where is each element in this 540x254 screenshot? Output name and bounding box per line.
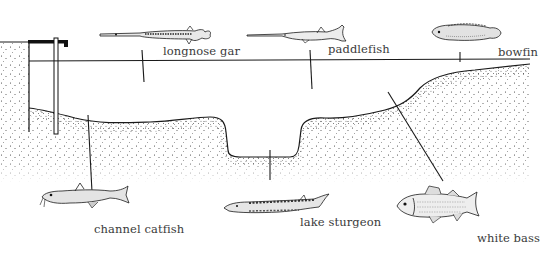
label-bowfin: bowfin [498, 45, 538, 59]
label-white-bass: white bass [477, 231, 540, 245]
label-longnose-gar: longnose gar [163, 44, 240, 58]
pointer-longnose-gar [142, 50, 144, 82]
label-lake-sturgeon: lake sturgeon [300, 215, 381, 229]
label-channel-catfish: channel catfish [94, 222, 184, 236]
label-paddlefish: paddlefish [328, 42, 390, 56]
water-surface-line [29, 59, 530, 61]
paddlefish-illustration [247, 25, 346, 43]
bowfin-illustration [432, 24, 501, 41]
lake-sturgeon-illustration [224, 194, 329, 213]
channel-catfish-illustration [40, 183, 129, 208]
white-bass-illustration [397, 186, 479, 223]
riverbed-sediment [0, 42, 530, 184]
pointer-paddlefish [310, 50, 312, 89]
longnose-gar-illustration [100, 26, 211, 44]
